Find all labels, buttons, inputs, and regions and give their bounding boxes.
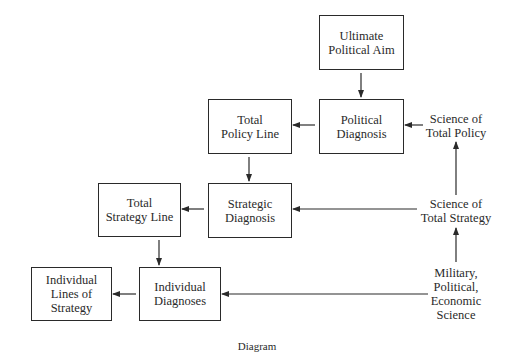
node-text: Lines of <box>46 287 97 301</box>
node-text: Individual <box>46 273 97 287</box>
node-total-policy-line: Total Policy Line <box>208 99 292 154</box>
node-ultimate-political-aim: Ultimate Political Aim <box>319 15 404 70</box>
node-text: Ultimate <box>328 29 394 43</box>
source-science-of-total-policy: Science of Total Policy <box>426 112 487 140</box>
source-text: Political, <box>431 280 482 294</box>
node-strategic-diagnosis: Strategic Diagnosis <box>208 183 292 238</box>
source-text: Total Strategy <box>421 211 491 225</box>
node-text: Strategic <box>225 197 275 211</box>
node-text: Political <box>337 113 387 127</box>
node-text: Diagnoses <box>154 294 206 308</box>
source-text: Military, <box>431 266 482 280</box>
node-text: Diagnosis <box>225 211 275 225</box>
node-individual-lines-of-strategy: Individual Lines of Strategy <box>31 267 112 321</box>
node-text: Total <box>221 113 279 127</box>
node-text: Strategy <box>46 301 97 315</box>
source-text: Economic <box>431 294 482 308</box>
node-total-strategy-line: Total Strategy Line <box>98 183 181 237</box>
node-text: Policy Line <box>221 127 279 141</box>
node-text: Diagnosis <box>337 127 387 141</box>
node-text: Total <box>106 196 174 210</box>
source-text: Science of <box>421 197 491 211</box>
source-science-of-total-strategy: Science of Total Strategy <box>421 197 491 225</box>
node-text: Individual <box>154 280 206 294</box>
node-political-diagnosis: Political Diagnosis <box>319 99 404 154</box>
source-military-political-economic-science: Military, Political, Economic Science <box>431 266 482 322</box>
diagram-caption: Diagram <box>238 340 276 352</box>
source-text: Total Policy <box>426 126 487 140</box>
source-text: Science <box>431 308 482 322</box>
node-individual-diagnoses: Individual Diagnoses <box>139 267 221 321</box>
node-text: Political Aim <box>328 43 394 57</box>
source-text: Science of <box>426 112 487 126</box>
node-text: Strategy Line <box>106 210 174 224</box>
